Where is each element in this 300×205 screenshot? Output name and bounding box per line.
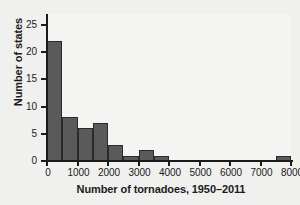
x-tick-mark <box>138 162 140 166</box>
x-tick-mark <box>290 162 292 166</box>
y-tick-label: 10 <box>8 102 37 112</box>
y-tick-label: 15 <box>8 74 37 84</box>
x-axis-line <box>46 160 293 162</box>
histogram-bar <box>47 41 62 161</box>
x-axis-title: Number of tornadoes, 1950–2011 <box>30 183 292 195</box>
histogram-bar <box>62 117 77 161</box>
x-tick-mark <box>168 162 170 166</box>
y-tick-label: 0 <box>8 156 37 166</box>
bar-series <box>47 14 291 161</box>
histogram-bar <box>108 145 123 161</box>
x-tick-label: 8000 <box>272 167 300 178</box>
y-tick-label: 5 <box>8 129 37 139</box>
x-tick-mark <box>107 162 109 166</box>
histogram-figure: Number of states 0510152025 010002000300… <box>0 0 300 205</box>
x-tick-mark <box>46 162 48 166</box>
histogram-bar <box>78 128 93 161</box>
y-tick-label: 20 <box>8 47 37 57</box>
x-tick-mark <box>260 162 262 166</box>
y-tick-label: 25 <box>8 20 37 30</box>
y-axis-line <box>46 14 48 162</box>
x-tick-mark <box>229 162 231 166</box>
histogram-bar <box>93 123 108 161</box>
x-tick-mark <box>77 162 79 166</box>
x-tick-mark <box>199 162 201 166</box>
